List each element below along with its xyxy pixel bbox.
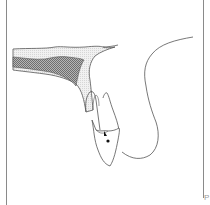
tooth-crown <box>92 120 119 166</box>
alveolar-bone-cortical <box>13 46 115 112</box>
dot-marker <box>106 139 109 142</box>
dental-diagram <box>0 0 210 205</box>
bone-upper-contour <box>103 45 118 47</box>
lingual-gingiva <box>103 93 119 130</box>
figure-label: P <box>204 194 209 202</box>
lip-profile <box>122 37 193 158</box>
